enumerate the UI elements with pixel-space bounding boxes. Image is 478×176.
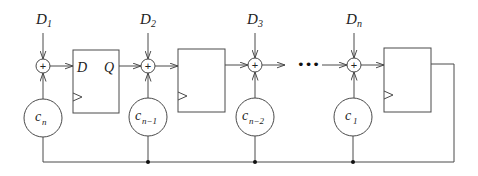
input-label-d1: D 1 [35, 11, 52, 29]
svg-text:+: + [252, 59, 258, 71]
shift-register-diagram: D 1 D 2 D 3 D n + + + + D Q [0, 0, 478, 176]
coefficient-cn: c n [24, 99, 62, 137]
adder-2: + [141, 59, 155, 73]
svg-text:D: D [76, 60, 87, 75]
ellipsis: ••• [297, 57, 320, 72]
svg-text:c: c [345, 108, 352, 123]
svg-text:1: 1 [353, 116, 358, 126]
flip-flop-n [384, 48, 431, 112]
svg-text:1: 1 [47, 18, 52, 29]
svg-text:D: D [246, 11, 258, 27]
adder-1: + [36, 59, 50, 73]
adder-n: + [347, 58, 361, 72]
junction-dot [146, 160, 150, 164]
svg-text:2: 2 [151, 18, 156, 29]
input-label-d3: D 3 [246, 11, 263, 29]
svg-text:n−1: n−1 [142, 116, 157, 126]
svg-text:D: D [345, 11, 357, 27]
svg-text:D: D [139, 11, 151, 27]
svg-text:D: D [35, 11, 47, 27]
svg-text:+: + [351, 59, 357, 71]
svg-text:+: + [145, 60, 151, 72]
coefficient-cn-2: c n−2 [236, 98, 274, 136]
junction-dot [351, 160, 355, 164]
svg-text:n: n [357, 18, 362, 29]
svg-text:n: n [42, 117, 47, 127]
input-label-d2: D 2 [139, 11, 156, 29]
coefficient-cn-1: c n−1 [129, 98, 167, 136]
svg-text:Q: Q [104, 60, 114, 75]
svg-text:3: 3 [257, 18, 263, 29]
svg-text:c: c [135, 108, 142, 123]
junction-dot [253, 160, 257, 164]
adder-3: + [248, 58, 262, 72]
svg-text:n−2: n−2 [249, 116, 265, 126]
svg-text:+: + [40, 60, 46, 72]
svg-text:c: c [242, 108, 249, 123]
coefficient-c1: c 1 [334, 98, 372, 136]
input-label-dn: D n [345, 11, 362, 29]
flip-flop-1: D Q [73, 50, 119, 113]
svg-text:c: c [35, 109, 42, 124]
flip-flop-2 [178, 49, 225, 112]
